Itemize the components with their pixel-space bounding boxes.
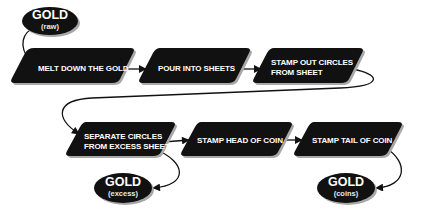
terminal-excess-subtitle: (excess)	[93, 190, 153, 199]
step-stamp-out-label-1: STAMP OUT CIRCLES	[271, 58, 353, 67]
terminal-coins-subtitle: (coins)	[316, 190, 376, 199]
nodes	[11, 7, 402, 203]
terminal-excess-title: GOLD	[93, 176, 153, 189]
step-stamp-out-label-2: FROM SHEET	[271, 68, 322, 77]
step-pour-label: POUR INTO SHEETS	[158, 64, 235, 73]
step-tail-label: STAMP TAIL OF COIN	[312, 136, 392, 145]
step-melt-label: MELT DOWN THE GOLD	[38, 64, 129, 73]
step-head-label: STAMP HEAD OF COIN	[197, 136, 283, 145]
terminal-raw-subtitle: (raw)	[20, 23, 80, 32]
terminal-raw-title: GOLD	[20, 9, 80, 22]
step-separate-label-2: FROM EXCESS SHEET	[84, 142, 169, 151]
step-separate-label-1: SEPARATE CIRCLES	[84, 132, 162, 141]
terminal-coins-title: GOLD	[316, 176, 376, 189]
